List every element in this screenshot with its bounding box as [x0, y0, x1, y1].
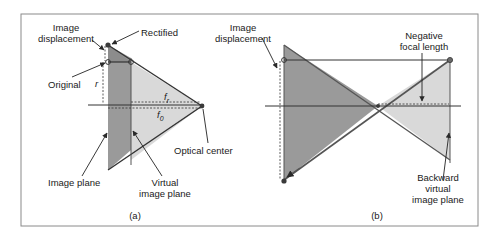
label-line: virtual	[406, 183, 470, 194]
label-negative-focal-length: Negative focal length	[392, 30, 456, 52]
label-original: Original	[48, 79, 81, 90]
f-r-subscript: r	[167, 97, 169, 104]
caption-b: (b)	[367, 210, 387, 221]
label-line: Negative	[392, 30, 456, 41]
label-line: Virtual	[135, 177, 195, 188]
center-point-b	[376, 104, 380, 108]
label-r: r	[95, 78, 98, 89]
label-virtual-image-plane: Virtual image plane	[135, 177, 195, 199]
diagram-figure: Image displacement Rectified Original r …	[0, 0, 497, 240]
bottom-point-b	[281, 178, 286, 183]
label-line: image plane	[135, 188, 195, 199]
image-plane-shape	[108, 45, 131, 170]
label-rectified: Rectified	[141, 27, 178, 38]
label-line: Image	[213, 22, 273, 33]
label-line: Backward	[406, 172, 470, 183]
right-point-b	[447, 57, 452, 62]
label-backward-virtual-image-plane: Backward virtual image plane	[406, 172, 470, 205]
label-line: image plane	[406, 194, 470, 205]
label-line: focal length	[392, 41, 456, 52]
label-optical-center: Optical center	[174, 145, 233, 156]
label-f-0: f0	[157, 109, 164, 124]
label-line: Image	[36, 22, 96, 33]
optical-center-point	[200, 104, 205, 109]
label-image-displacement-b: Image displacement	[213, 22, 273, 44]
rectified-point	[105, 42, 110, 47]
label-image-displacement-a: Image displacement	[36, 22, 96, 44]
caption-a: (a)	[125, 210, 145, 221]
label-f-r: fr	[164, 91, 169, 106]
f-0-subscript: 0	[160, 115, 164, 122]
label-line: displacement	[36, 33, 96, 44]
label-image-plane: Image plane	[48, 177, 100, 188]
label-line: displacement	[213, 33, 273, 44]
